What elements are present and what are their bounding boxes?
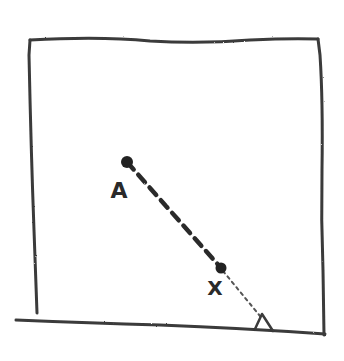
diagram-canvas: A X [0,0,344,361]
dashed-line-a-to-x [127,162,221,268]
point-x-dot [216,263,227,274]
floor-line [16,320,325,334]
sketch-svg [0,0,344,361]
room-left-wall [29,40,37,313]
point-a-label: A [110,180,127,202]
dotted-line-x-to-triangle [223,271,260,316]
room-top-wall [30,38,318,42]
point-x-label: X [207,278,222,298]
room-right-wall [318,39,324,335]
point-a-dot [121,156,133,168]
